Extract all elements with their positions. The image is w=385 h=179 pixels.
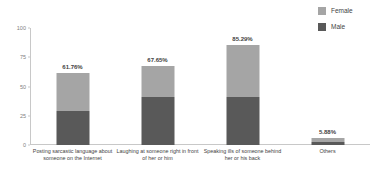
legend-label-female: Female: [331, 7, 353, 15]
bar-segment-male[interactable]: [141, 97, 174, 145]
bar-value-label: 67.65%: [147, 57, 167, 64]
bar-segment-male[interactable]: [56, 111, 89, 145]
bar-stack[interactable]: [226, 45, 259, 145]
bar-segment-female[interactable]: [226, 45, 259, 97]
y-axis-tick-label: 0: [23, 142, 26, 148]
bar-segment-male[interactable]: [311, 142, 344, 145]
bars-container: 61.76%67.65%85.29%5.88%: [30, 28, 370, 145]
x-axis-category-labels: Posting sarcastic language about someone…: [30, 148, 370, 176]
bar-value-label: 5.88%: [319, 129, 336, 136]
bar-stack[interactable]: [141, 66, 174, 145]
bar-segment-male[interactable]: [226, 97, 259, 145]
bar-segment-female[interactable]: [141, 66, 174, 97]
bar-group[interactable]: 85.29%: [200, 28, 285, 145]
bar-stack[interactable]: [56, 73, 89, 145]
legend-swatch-female: [318, 7, 326, 15]
bar-value-label: 61.76%: [62, 64, 82, 71]
stacked-bar-chart: Female Male 1007550250 61.76%67.65%85.29…: [0, 0, 385, 179]
bar-group[interactable]: 5.88%: [285, 28, 370, 145]
x-axis-category-label: Others: [287, 148, 369, 155]
y-axis-tick-label: 100: [17, 25, 26, 31]
legend-item-female: Female: [318, 4, 382, 17]
y-axis-tick-label: 75: [20, 54, 26, 60]
y-axis-tick-label: 25: [20, 113, 26, 119]
x-axis-category-label: Laughing at someone right in front of he…: [117, 148, 199, 162]
bar-stack[interactable]: [311, 138, 344, 145]
bar-group[interactable]: 61.76%: [30, 28, 115, 145]
plot-area: 1007550250 61.76%67.65%85.29%5.88%: [30, 28, 370, 145]
y-axis-tick-label: 50: [20, 84, 26, 90]
x-axis-category-label: Speaking ills of someone behind her or h…: [202, 148, 284, 162]
x-axis-category-label: Posting sarcastic language about someone…: [32, 148, 114, 162]
bar-group[interactable]: 67.65%: [115, 28, 200, 145]
bar-segment-female[interactable]: [56, 73, 89, 111]
bar-value-label: 85.29%: [232, 36, 252, 43]
